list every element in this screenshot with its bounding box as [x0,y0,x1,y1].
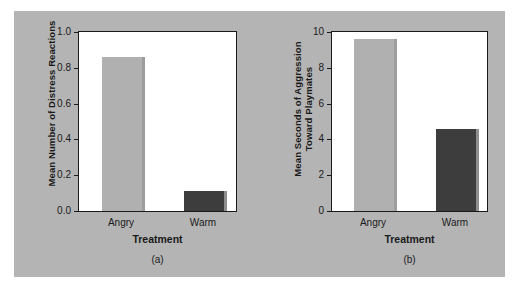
x-axis-label-b: Treatment [331,233,488,245]
plot-area-a: 0.00.20.40.60.81.0 [78,31,237,212]
y-axis-tick-label: 0.4 [31,133,71,144]
y-axis-tick: 0 [327,211,332,212]
chart-panel-a: Mean Number of Distress Reactions 0.00.2… [14,11,259,277]
figure-container: Mean Number of Distress Reactions 0.00.2… [14,11,505,277]
bar-warm [436,129,476,211]
y-axis-tick: 4 [327,139,332,140]
bar-angry [102,57,142,211]
x-axis-category-label: Warm [425,217,485,228]
y-axis-tick: 0.8 [74,68,79,69]
y-axis-tick: 6 [327,104,332,105]
y-axis-tick-label: 0.2 [31,169,71,180]
bar-warm [184,191,224,211]
y-axis-tick-label: 4 [284,133,324,144]
bar-angry [354,39,394,211]
plot-area-b: 0246810 [331,31,488,212]
y-axis-tick-label: 8 [284,62,324,73]
y-axis-tick-label: 10 [284,26,324,37]
y-axis-tick: 0.6 [74,104,79,105]
y-axis-tick-label: 0.8 [31,62,71,73]
y-axis-tick: 0.0 [74,211,79,212]
panel-caption-a: (a) [78,254,237,265]
x-axis-category-label: Angry [91,217,151,228]
y-axis-tick: 0.4 [74,139,79,140]
y-axis-tick: 0.2 [74,175,79,176]
panel-caption-b: (b) [331,254,488,265]
y-axis-tick-label: 0.6 [31,98,71,109]
x-axis-category-label: Angry [343,217,403,228]
chart-panel-b: Mean Seconds of Aggression Toward Playma… [260,11,505,277]
y-axis-tick: 10 [327,32,332,33]
x-axis-category-label: Warm [173,217,233,228]
y-axis-tick: 2 [327,175,332,176]
y-axis-tick-label: 2 [284,169,324,180]
y-axis-tick-label: 6 [284,98,324,109]
y-axis-tick: 8 [327,68,332,69]
y-axis-tick-label: 1.0 [31,26,71,37]
y-axis-tick-label: 0 [284,205,324,216]
x-axis-label-a: Treatment [78,233,237,245]
y-axis-tick-label: 0.0 [31,205,71,216]
y-axis-tick: 1.0 [74,32,79,33]
